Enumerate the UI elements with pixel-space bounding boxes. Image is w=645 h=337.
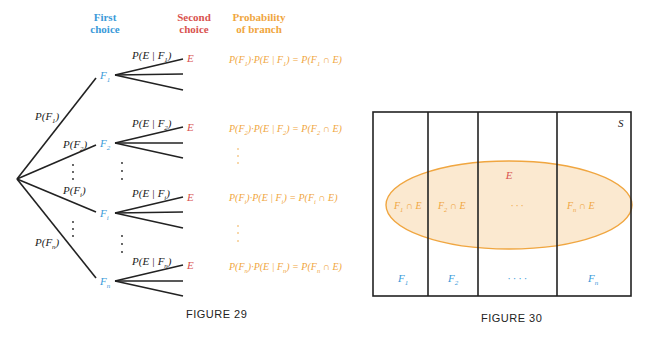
cond-label-f1: P(E | F1) (131, 49, 172, 64)
node-fn: Fn (99, 275, 111, 290)
outcome-e-2: E (186, 121, 194, 133)
node-f1: F1 (99, 69, 110, 84)
branch-prob-2: P(F2)·P(E | F2) = P(F2 ∩ E) (228, 123, 342, 136)
branch-prob-i: P(Fi)·P(E | Fi) = P(Fi ∩ E) (228, 192, 338, 205)
partition-diagram: S E F1 ∩ E F2 ∩ E · · · Fn ∩ E F1 F2 · ·… (373, 112, 632, 324)
outcome-e-i: E (186, 191, 194, 203)
header-probability-line1: Probability (233, 11, 286, 23)
conditional-labels: P(E | F1) P(E | F2) P(E | Fi) P(E | Fn) (131, 49, 172, 270)
header-probability-line2: of branch (236, 23, 282, 35)
cond-label-fn: P(E | Fn) (131, 255, 172, 270)
event-label: E (505, 169, 513, 181)
edge-label-fi: P(Fi) (62, 184, 86, 199)
first-level-branches (17, 78, 96, 278)
branch-prob-n: P(Fn)·P(E | Fn) = P(Fn ∩ E) (228, 261, 342, 274)
outcome-e-n: E (186, 259, 194, 271)
edge-label-f1: P(F1) (34, 110, 60, 125)
figure-29-caption: FIGURE 29 (186, 308, 247, 320)
partition-f2: F2 (447, 272, 459, 287)
cond-label-f2: P(E | F2) (131, 117, 172, 132)
first-choice-nodes: F1 F2 Fi Fn (99, 69, 111, 290)
partition-fn: Fn (587, 272, 599, 287)
edge-label-fn: P(Fn) (34, 236, 60, 251)
edge-labels: P(F1) P(F2) P(Fi) P(Fn) (34, 110, 88, 251)
figure-30-caption: FIGURE 30 (481, 312, 542, 324)
header-first-choice-line2: choice (90, 23, 119, 35)
partition-f1: F1 (397, 272, 408, 287)
tree-diagram: First choice Second choice Probability o… (17, 11, 342, 320)
header-first-choice-line1: First (94, 11, 117, 23)
ellipsis-dots (72, 162, 123, 253)
node-fi: Fi (99, 207, 109, 222)
header-second-choice-line2: choice (179, 23, 208, 35)
sample-space-label: S (618, 117, 624, 129)
diagram-canvas: First choice Second choice Probability o… (0, 0, 645, 337)
node-f2: F2 (99, 137, 111, 152)
cond-label-fi: P(E | Fi) (131, 187, 170, 202)
header-second-choice-line1: Second (177, 11, 211, 23)
branch-prob-1: P(F1)·P(E | F1) = P(F1 ∩ E) (228, 54, 342, 67)
branch-probabilities: P(F1)·P(E | F1) = P(F1 ∩ E) P(F2)·P(E | … (228, 54, 342, 274)
partition-ellipsis: · · · · (507, 272, 527, 284)
second-choice-outcomes: E E E E (186, 52, 194, 271)
outcome-e-1: E (186, 52, 194, 64)
intersection-ellipsis: · · · (511, 200, 524, 211)
